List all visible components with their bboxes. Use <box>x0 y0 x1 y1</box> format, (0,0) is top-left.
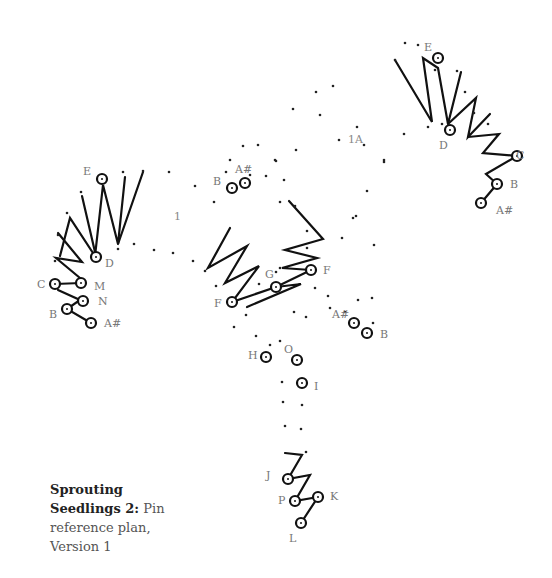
section-label: 1A <box>348 133 364 146</box>
hole-dot <box>279 340 282 343</box>
hole-dot <box>434 69 437 72</box>
pin-center-dot <box>437 57 439 59</box>
pin-center-dot <box>244 182 246 184</box>
pin-label: B <box>49 308 57 321</box>
pin-center-dot <box>480 202 482 204</box>
zigzag-stroke <box>468 134 517 203</box>
pin-center-dot <box>82 300 84 302</box>
hole-dot <box>356 126 359 129</box>
hole-dot <box>245 314 248 317</box>
hole-dot <box>172 252 175 255</box>
pin-label: O <box>284 343 293 356</box>
pin-label: P <box>278 494 286 507</box>
hole-dot <box>372 322 375 325</box>
hole-dot <box>275 271 278 274</box>
pin-center-dot <box>54 283 56 285</box>
hole-dot <box>229 159 232 162</box>
hole-dot <box>341 237 344 240</box>
hole-dot <box>314 287 317 290</box>
hole-dot <box>257 144 260 147</box>
hole-dot <box>456 70 459 73</box>
hole-dot <box>153 249 156 252</box>
pin-label: H <box>248 349 258 362</box>
hole-dot <box>194 185 197 188</box>
hole-dot <box>355 215 358 218</box>
hole-dot <box>117 248 120 251</box>
hole-dot <box>487 123 490 126</box>
hole-dot <box>192 260 195 263</box>
hole-dot <box>417 44 420 47</box>
pin-center-dot <box>366 332 368 334</box>
pin-center-dot <box>301 382 303 384</box>
hole-dot <box>213 201 216 204</box>
hole-dot <box>403 133 406 136</box>
hole-dot <box>301 404 304 407</box>
hole-dot <box>293 311 296 314</box>
hole-dot <box>332 85 335 88</box>
pin-center-dot <box>294 500 296 502</box>
pin-center-dot <box>275 286 277 288</box>
hole-dot <box>441 123 444 126</box>
hole-dot <box>284 425 287 428</box>
section-label: 1 <box>174 210 181 223</box>
pin-label: A# <box>331 308 349 321</box>
hole-dot <box>306 247 309 250</box>
pin-label: A# <box>103 317 121 330</box>
pin-center-dot <box>317 496 319 498</box>
hole-dot <box>306 230 309 233</box>
hole-dot <box>294 205 297 208</box>
pin-label: F <box>323 264 331 277</box>
hole-dot <box>394 59 397 62</box>
hole-dot <box>265 175 268 178</box>
figure-caption: Sprouting Seedlings 2: Pin reference pla… <box>50 480 190 556</box>
pin-center-dot <box>296 359 298 361</box>
hole-dot <box>371 297 374 300</box>
hole-dot <box>300 428 303 431</box>
pin-center-dot <box>231 301 233 303</box>
hole-dot <box>275 160 278 163</box>
hole-dot <box>373 244 376 247</box>
section-labels: 11A <box>174 133 364 223</box>
hole-dot <box>329 307 332 310</box>
pin-center-dot <box>265 356 267 358</box>
hole-dot <box>122 171 125 174</box>
pin-label: D <box>105 257 114 270</box>
hole-dot <box>327 295 330 298</box>
pin-label: B <box>510 178 518 191</box>
hole-dot <box>142 170 145 173</box>
hole-dot <box>225 171 228 174</box>
hole-dot <box>427 126 430 129</box>
hole-dot <box>255 335 258 338</box>
hole-dot <box>57 234 60 237</box>
pin-center-dot <box>231 187 233 189</box>
pin-label: N <box>98 295 108 308</box>
caption-title: Sprouting Seedlings 2: <box>50 482 139 516</box>
pin-label: F <box>214 297 222 310</box>
pin-label: A# <box>234 163 252 176</box>
pin-center-dot <box>449 129 451 131</box>
pin-center-dot <box>300 522 302 524</box>
hole-dot <box>366 190 369 193</box>
hole-dot <box>283 179 286 182</box>
hole-dot <box>54 260 57 263</box>
hole-dot <box>404 42 407 45</box>
pin-center-dot <box>287 478 289 480</box>
hole-dot <box>279 267 282 270</box>
pin-center-dot <box>95 256 97 258</box>
pin-label: I <box>314 380 318 393</box>
pin-label: B <box>213 175 221 188</box>
hole-dot <box>133 243 136 246</box>
hole-dot <box>363 144 366 147</box>
hole-dot <box>258 283 261 286</box>
hole-dot <box>215 285 218 288</box>
hole-dot <box>279 201 282 204</box>
pin-center-dot <box>66 308 68 310</box>
hole-dot <box>281 381 284 384</box>
pin-label: G <box>265 268 274 281</box>
hole-dot <box>168 171 171 174</box>
zigzag-stroke <box>395 58 461 124</box>
hole-dot <box>383 159 386 162</box>
hole-dot <box>282 401 285 404</box>
hole-dot <box>292 108 295 111</box>
pin-label: C <box>37 278 45 291</box>
